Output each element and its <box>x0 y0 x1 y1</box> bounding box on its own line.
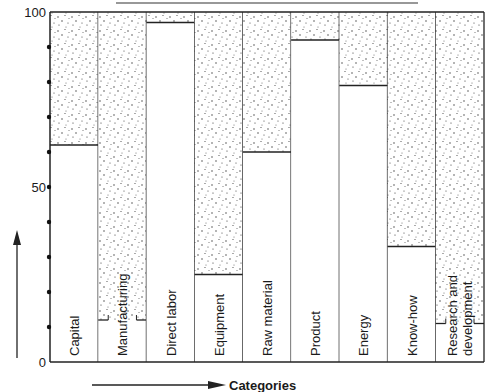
x-arrow <box>92 381 226 389</box>
chart: 0 50 100 Categories CapitalManufacturing… <box>0 0 495 392</box>
bar-upper-stippled <box>291 12 339 40</box>
category-label: Manufacturing <box>115 274 130 356</box>
category-label: development <box>460 281 475 356</box>
bar-upper-stippled <box>195 12 243 275</box>
x-axis-label: Categories <box>229 378 296 392</box>
bar-upper-stippled <box>339 12 387 86</box>
y-arrow-head-icon <box>13 230 21 245</box>
category-label: Product <box>308 311 323 356</box>
category-label: Equipment <box>212 293 227 356</box>
category-label: Energy <box>356 314 371 356</box>
y-tick-dot <box>47 220 51 224</box>
category-label: Research and <box>445 275 460 356</box>
bar-upper-stippled <box>146 12 194 23</box>
y-tick-dot <box>47 185 51 189</box>
x-arrow-head-icon <box>208 381 226 389</box>
bar-upper-stippled <box>243 12 291 152</box>
category-label: Know-how <box>405 295 420 356</box>
y-tick-dot <box>47 115 51 119</box>
category-label: Capital <box>67 315 82 356</box>
y-arrow <box>13 230 21 358</box>
y-axis <box>47 12 51 362</box>
bar-upper-stippled <box>50 12 98 145</box>
category-label: Direct labor <box>164 289 179 356</box>
y-tick-dot <box>47 325 51 329</box>
bar-upper-stippled <box>388 12 436 247</box>
y-tick-label-0: 0 <box>39 355 46 370</box>
y-tick-dot <box>47 150 51 154</box>
y-tick-dot <box>47 45 51 49</box>
y-tick-label-50: 50 <box>32 180 46 195</box>
y-tick-label-100: 100 <box>24 5 46 20</box>
y-tick-dot <box>47 80 51 84</box>
category-label: Raw material <box>260 280 275 356</box>
y-tick-dot <box>47 255 51 259</box>
y-tick-dot <box>47 290 51 294</box>
